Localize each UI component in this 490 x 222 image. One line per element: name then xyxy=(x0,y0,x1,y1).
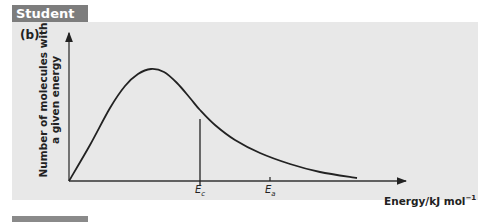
next-section-tab xyxy=(12,216,88,222)
ec-label: Ec xyxy=(195,184,205,198)
x-axis-label: Energy/kJ mol−1 xyxy=(384,194,476,207)
distribution-curve xyxy=(69,69,357,181)
ea-label: Ea xyxy=(265,184,276,198)
distribution-chart xyxy=(0,0,490,222)
y-axis-label: Number of molecules with a given energy xyxy=(37,20,67,180)
